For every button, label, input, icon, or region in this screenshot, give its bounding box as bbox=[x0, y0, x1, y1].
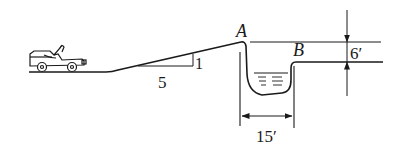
diagram-canvas: 5 1 A B 15′ 6′ bbox=[0, 0, 408, 151]
ditch-width-label: 15′ bbox=[256, 127, 277, 146]
slope-run-label: 5 bbox=[158, 73, 167, 92]
diagram-svg: 5 1 A B 15′ 6′ bbox=[0, 0, 408, 151]
height-drop-label: 6′ bbox=[350, 44, 362, 63]
slope-rise-label: 1 bbox=[195, 55, 203, 72]
water-icon bbox=[254, 73, 288, 85]
point-b-label: B bbox=[293, 40, 304, 60]
point-a-label: A bbox=[235, 21, 248, 41]
jeep-icon bbox=[30, 45, 86, 72]
ditch-width-dimension bbox=[240, 52, 294, 128]
